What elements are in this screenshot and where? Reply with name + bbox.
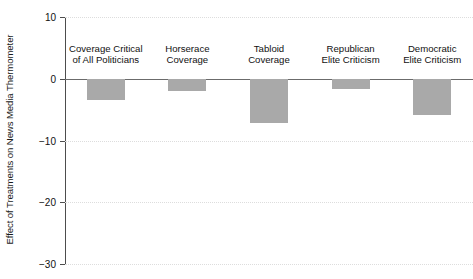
category-label-line: Coverage — [248, 54, 290, 66]
y-tick-mark — [60, 17, 65, 18]
category-label: TabloidCoverage — [248, 43, 290, 66]
bar — [332, 79, 370, 89]
bar — [168, 79, 206, 91]
category-label-line: Elite Criticism — [403, 54, 461, 66]
plot-area: Coverage Criticalof All PoliticiansHorse… — [65, 17, 473, 264]
y-tick-mark — [60, 202, 65, 203]
category-label: RepublicanElite Criticism — [322, 43, 380, 66]
bar — [413, 79, 451, 115]
gridline-10 — [65, 17, 473, 18]
category-label-line: Coverage Critical — [69, 43, 143, 55]
y-tick-label: −10 — [0, 135, 56, 146]
bar-chart: Effect of Treatments on News Media Therm… — [0, 0, 473, 279]
category-label-line: Democratic — [403, 43, 461, 55]
category-label-line: Tabloid — [248, 43, 290, 55]
category-label: DemocraticElite Criticism — [403, 43, 461, 66]
category-label-line: Elite Criticism — [322, 54, 380, 66]
category-label-line: of All Politicians — [69, 54, 143, 66]
category-label-line: Republican — [322, 43, 380, 55]
category-label-line: Horserace — [165, 43, 209, 55]
category-label-line: Coverage — [165, 54, 209, 66]
y-tick-label: 0 — [0, 73, 56, 84]
y-tick-mark — [60, 141, 65, 142]
bar — [87, 79, 125, 101]
y-tick-label: −30 — [0, 259, 56, 270]
bar — [250, 79, 288, 123]
gridline-neg30 — [65, 264, 473, 265]
y-tick-mark — [60, 264, 65, 265]
category-label: Coverage Criticalof All Politicians — [69, 43, 143, 66]
category-label: HorseraceCoverage — [165, 43, 209, 66]
y-tick-label: 10 — [0, 12, 56, 23]
y-tick-label: −20 — [0, 197, 56, 208]
gridline-neg20 — [65, 202, 473, 203]
gridline-neg10 — [65, 141, 473, 142]
